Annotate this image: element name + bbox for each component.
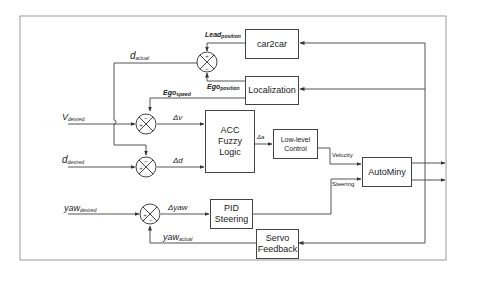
acc-fuzzy-logic-block: ACC Fuzzy Logic xyxy=(205,110,255,173)
summer-yaw-plus: + xyxy=(143,212,147,218)
servo-feedback-block: Servo Feedback xyxy=(256,229,299,259)
localization-label: Localization xyxy=(248,85,296,96)
summer-dd-minus: − xyxy=(144,158,148,164)
summer-top-minus: − xyxy=(205,66,209,72)
summer-yaw-minus: − xyxy=(149,217,153,223)
autominy-label: AutoMiny xyxy=(368,167,406,178)
car2car-block: car2car xyxy=(245,29,299,59)
low-level-control-block: Low-level Control xyxy=(273,129,318,159)
servo-label-1: Servo xyxy=(266,233,290,244)
steering-label: Steering xyxy=(332,181,354,187)
d-desired-label: ddesired xyxy=(62,154,84,165)
ego-position-label: Egoposition xyxy=(207,83,240,91)
lowlevel-label-2: Control xyxy=(284,144,307,153)
velocity-label: Velocity xyxy=(332,152,353,158)
v-desired-label: Vdesired xyxy=(62,112,84,122)
delta-d-label: Δd xyxy=(173,156,183,165)
lead-position-label: Leadposition xyxy=(205,31,241,39)
delta-a-label: Δa xyxy=(257,134,264,140)
servo-label-2: Feedback xyxy=(258,244,298,255)
localization-block: Localization xyxy=(245,76,299,105)
car2car-label: car2car xyxy=(257,39,287,50)
yaw-actual-label: yawactual xyxy=(163,232,192,242)
summer-top-plus: + xyxy=(205,53,209,59)
autominy-block: AutoMiny xyxy=(362,157,412,187)
pid-label-1: PID xyxy=(224,203,239,214)
delta-v-label: Δv xyxy=(173,113,182,122)
ego-speed-label: Egospeed xyxy=(163,89,191,97)
d-actual-label: dactual xyxy=(130,50,149,61)
summer-dv-minus: − xyxy=(144,115,148,121)
yaw-desired-label: yawdesired xyxy=(64,203,96,213)
lowlevel-label-1: Low-level xyxy=(281,135,311,144)
delta-yaw-label: Δyaw xyxy=(168,203,188,212)
summer-dd-plus: + xyxy=(139,165,143,171)
summer-dv-plus: + xyxy=(139,122,143,128)
pid-steering-block: PID Steering xyxy=(210,199,253,229)
acc-label-2: Fuzzy Logic xyxy=(206,136,254,158)
acc-label-1: ACC xyxy=(220,125,239,136)
pid-label-2: Steering xyxy=(215,214,249,225)
